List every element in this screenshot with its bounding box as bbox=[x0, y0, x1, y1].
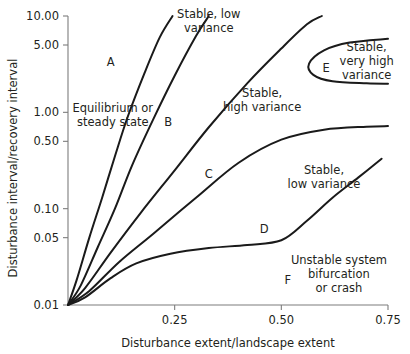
x-tick-label-0: 0.25 bbox=[162, 313, 188, 327]
chart-annotations: ABCDEFEquilibrium orsteady stateStable, … bbox=[73, 7, 394, 296]
y-tick-label-5: 0.05 bbox=[33, 231, 59, 245]
label-equilibrium-line-0: Equilibrium or bbox=[73, 101, 154, 115]
y-tick-label-6: 0.01 bbox=[33, 298, 59, 312]
label-equilibrium: Equilibrium orsteady state bbox=[73, 101, 154, 129]
y-tick-label-3: 0.50 bbox=[33, 134, 59, 148]
x-tick-label-1: 0.50 bbox=[269, 313, 295, 327]
label-stable-low-variance-mid-line-0: Stable, bbox=[304, 163, 344, 177]
y-axis-tick-labels: 10.005.001.000.500.100.050.01 bbox=[26, 9, 59, 312]
label-stable-very-high-variance: Stable,very highvariance bbox=[340, 40, 394, 82]
label-stable-low-variance-mid-line-1: low variance bbox=[288, 177, 361, 191]
y-tick-label-1: 5.00 bbox=[33, 38, 59, 52]
y-tick-label-2: 1.00 bbox=[33, 105, 59, 119]
region-letter-f: F bbox=[284, 273, 291, 287]
label-unstable: Unstable systembifurcationor crash bbox=[291, 253, 387, 295]
chart-svg: 10.005.001.000.500.100.050.01 0.250.500.… bbox=[0, 0, 410, 354]
chart-figure: 10.005.001.000.500.100.050.01 0.250.500.… bbox=[0, 0, 410, 354]
label-stable-very-high-variance-line-0: Stable, bbox=[347, 40, 387, 54]
label-stable-low-variance-mid: Stable,low variance bbox=[288, 163, 361, 191]
region-letter-e: E bbox=[322, 61, 329, 75]
y-axis-title: Disturbance interval/recovery interval bbox=[6, 59, 20, 278]
label-stable-low-variance-top-line-0: Stable, low bbox=[177, 7, 240, 21]
label-stable-high-variance-line-1: high variance bbox=[223, 100, 301, 114]
y-axis-ticks bbox=[63, 16, 68, 305]
y-tick-label-0: 10.00 bbox=[26, 9, 59, 23]
label-stable-very-high-variance-line-1: very high bbox=[340, 54, 394, 68]
label-unstable-line-1: bifurcation bbox=[308, 267, 370, 281]
x-tick-label-2: 0.75 bbox=[375, 313, 401, 327]
label-equilibrium-line-1: steady state bbox=[77, 115, 149, 129]
label-unstable-line-2: or crash bbox=[316, 281, 363, 295]
label-stable-very-high-variance-line-2: variance bbox=[342, 68, 392, 82]
label-stable-low-variance-top: Stable, lowvariance bbox=[177, 7, 240, 35]
x-axis-title: Disturbance extent/landscape extent bbox=[121, 336, 335, 350]
label-stable-high-variance: Stable,high variance bbox=[223, 86, 301, 114]
label-stable-low-variance-top-line-1: variance bbox=[184, 21, 234, 35]
region-letter-a: A bbox=[107, 55, 115, 69]
region-letter-d: D bbox=[260, 222, 269, 236]
x-axis-tick-labels: 0.250.500.75 bbox=[162, 313, 401, 327]
region-letter-c: C bbox=[205, 167, 213, 181]
y-tick-label-4: 0.10 bbox=[33, 202, 59, 216]
x-axis-ticks bbox=[175, 305, 388, 310]
label-unstable-line-0: Unstable system bbox=[291, 253, 387, 267]
region-letter-b: B bbox=[164, 115, 172, 129]
label-stable-high-variance-line-0: Stable, bbox=[242, 86, 282, 100]
